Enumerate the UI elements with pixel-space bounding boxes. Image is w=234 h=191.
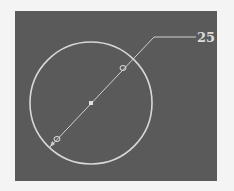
dimension-value-label[interactable]: 25	[197, 30, 215, 45]
sketch-drawing: 25	[0, 0, 234, 191]
center-point-handle[interactable]	[89, 101, 93, 105]
diameter-dimension-line[interactable]	[50, 37, 154, 147]
